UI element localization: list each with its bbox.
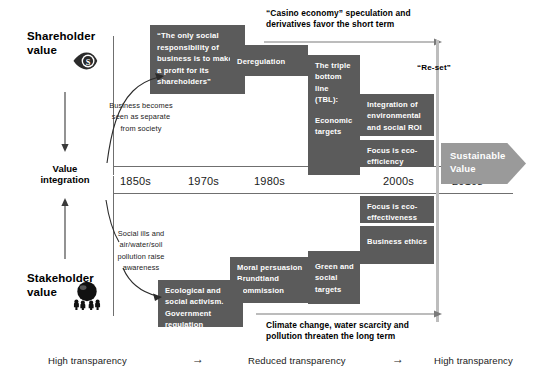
decade-label-1990s: 1990s bbox=[318, 175, 349, 187]
decade-label-1850s: 1850s bbox=[120, 175, 151, 187]
eco-efficiency-box: Focus is eco-efficiency bbox=[360, 140, 434, 167]
shareholder-value-label-line1: Shareholder bbox=[27, 30, 95, 44]
reset-label: “Re-set” bbox=[417, 63, 451, 72]
stakeholder-to-integration-arrow bbox=[58, 197, 72, 259]
shareholder-to-integration-arrow bbox=[58, 92, 72, 154]
sustainable-value-line1: Sustainable bbox=[450, 150, 526, 163]
eye-dollar-icon: S bbox=[72, 50, 98, 72]
value-integration-line1: Value bbox=[20, 163, 110, 174]
business-ethics-box: Business ethics bbox=[360, 226, 434, 264]
tbl-economic-targets: Economic targets bbox=[315, 115, 354, 138]
timeline-axis-lower-rule bbox=[113, 193, 513, 194]
decade-label-1970s: 1970s bbox=[188, 175, 219, 187]
casino-economy-caption: “Casino economy” speculation and derivat… bbox=[266, 8, 466, 31]
deregulation-box: Deregulation bbox=[230, 45, 308, 76]
people-globe-icon bbox=[72, 280, 102, 310]
long-term-arrow bbox=[256, 308, 444, 320]
transparency-middle-label: Reduced transparency bbox=[248, 355, 346, 366]
reset-vertical-line bbox=[436, 40, 439, 322]
transparency-left-label: High transparency bbox=[48, 355, 127, 366]
business-becomes-curved-arrow bbox=[103, 55, 167, 165]
value-integration-line2: integration bbox=[20, 174, 110, 185]
eco-effectiveness-box: Focus is eco-effectiveness bbox=[360, 196, 434, 223]
transparency-arrow-1: → bbox=[192, 352, 204, 366]
sustainable-value-line2: Value bbox=[450, 163, 526, 176]
transparency-arrow-2: → bbox=[392, 352, 404, 366]
sustainable-value-arrow: Sustainable Value bbox=[441, 143, 526, 184]
climate-change-caption-line2: pollution threaten the long term bbox=[266, 331, 466, 342]
decade-label-2000s: 2000s bbox=[383, 175, 414, 187]
casino-economy-caption-line1: “Casino economy” speculation and bbox=[266, 8, 466, 19]
svg-text:S: S bbox=[86, 58, 91, 67]
social-ills-curved-arrow bbox=[103, 198, 169, 308]
casino-economy-caption-line2: derivatives favor the short term bbox=[266, 19, 466, 30]
value-integration-label: Value integration bbox=[20, 163, 110, 186]
ecological-activism-box: Ecological and social activism. Governme… bbox=[158, 280, 243, 327]
climate-change-caption: Climate change, water scarcity and pollu… bbox=[266, 320, 466, 343]
diagram-canvas: Shareholder value S Value integration St… bbox=[0, 0, 533, 383]
triple-bottom-line-box: The triple bottom line (TBL): Economic t… bbox=[308, 55, 360, 175]
decade-label-1980s: 1980s bbox=[254, 175, 285, 187]
integration-roi-box: Integration of environmental and social … bbox=[360, 94, 434, 136]
climate-change-caption-line1: Climate change, water scarcity and bbox=[266, 320, 466, 331]
transparency-right-label: High transparency bbox=[434, 355, 513, 366]
tbl-title: The triple bottom line (TBL): bbox=[315, 60, 354, 106]
green-social-targets-box: Green and social targets bbox=[308, 251, 360, 304]
